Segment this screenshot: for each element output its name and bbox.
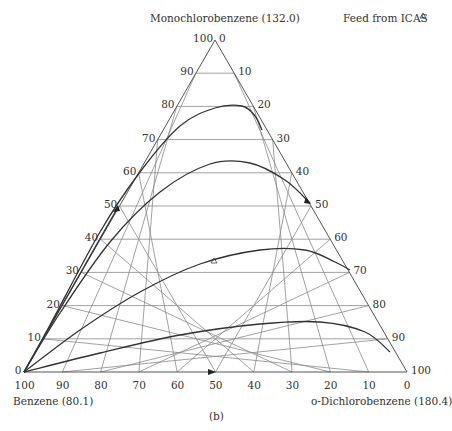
left-tick-label: 40 xyxy=(85,232,98,243)
bottom-tick-label: 30 xyxy=(286,380,299,391)
bottom-tick-label: 90 xyxy=(56,380,69,391)
left-vertex-label: Benzene (80.1) xyxy=(13,396,93,407)
right-tick-label: 0 xyxy=(219,33,226,44)
left-tick-label: 100 xyxy=(193,33,213,44)
right-tick-label: 10 xyxy=(238,66,251,77)
right-tick-label: 90 xyxy=(392,332,405,343)
bottom-tick-label: 40 xyxy=(248,380,261,391)
bottom-tick-label: 0 xyxy=(404,380,411,391)
bottom-tick-label: 60 xyxy=(171,380,184,391)
bottom-tick-label: 10 xyxy=(362,380,375,391)
left-tick-label: 90 xyxy=(180,66,193,77)
left-tick-label: 20 xyxy=(47,299,60,310)
left-tick-label: 70 xyxy=(142,133,155,144)
right-tick-label: 40 xyxy=(296,166,309,177)
bottom-tick-label: 50 xyxy=(209,380,222,391)
residue-curve xyxy=(24,321,390,372)
right-tick-label: 60 xyxy=(334,232,347,243)
right-tick-label: 20 xyxy=(257,99,270,110)
left-tick-label: 0 xyxy=(15,365,22,376)
left-tick-label: 30 xyxy=(66,265,79,276)
right-tick-label: 30 xyxy=(277,133,290,144)
residue-curve xyxy=(24,105,262,372)
figure-caption: (b) xyxy=(209,411,224,422)
bottom-tick-label: 20 xyxy=(324,380,337,391)
right-tick-label: 80 xyxy=(373,299,386,310)
legend-feed-label: Feed from ICAS xyxy=(343,13,428,24)
bottom-tick-label: 100 xyxy=(15,380,35,391)
left-tick-label: 80 xyxy=(161,99,174,110)
top-vertex-label: Monochlorobenzene (132.0) xyxy=(150,13,300,24)
right-tick-label: 70 xyxy=(353,265,366,276)
right-vertex-label: o-Dichlorobenzene (180.4) xyxy=(311,396,452,407)
left-tick-label: 50 xyxy=(104,199,117,210)
left-tick-label: 10 xyxy=(28,332,41,343)
right-tick-label: 100 xyxy=(411,365,431,376)
bottom-tick-label: 70 xyxy=(133,380,146,391)
grid-lines xyxy=(43,73,388,372)
arrow-icon xyxy=(113,197,311,375)
left-tick-label: 60 xyxy=(123,166,136,177)
right-tick-label: 50 xyxy=(315,199,328,210)
bottom-tick-label: 80 xyxy=(94,380,107,391)
